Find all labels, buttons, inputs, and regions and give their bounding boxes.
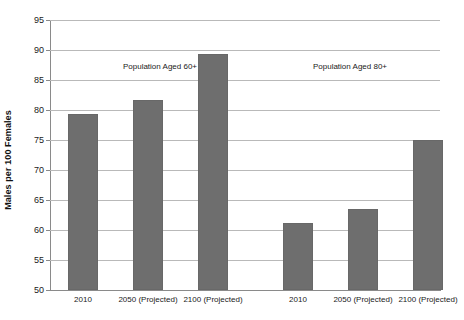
- y-tick-label: 70: [34, 165, 44, 175]
- x-tick-label: 2050 (Projected): [118, 295, 177, 304]
- y-axis-title: Males per 100 Females: [0, 0, 16, 320]
- x-tick-label: 2010: [74, 295, 92, 304]
- gridline: [50, 140, 440, 141]
- bar: [413, 140, 443, 290]
- y-tick-mark: [46, 290, 50, 291]
- gridline: [50, 230, 440, 231]
- bar: [348, 209, 378, 290]
- y-tick-label: 80: [34, 105, 44, 115]
- gridline: [50, 20, 440, 21]
- y-tick-mark: [46, 140, 50, 141]
- y-tick-mark: [46, 230, 50, 231]
- x-tick-label: 2050 (Projected): [333, 295, 392, 304]
- y-tick-label: 85: [34, 75, 44, 85]
- y-tick-mark: [46, 170, 50, 171]
- group-annotation-label: Population Aged 80+: [313, 62, 387, 71]
- gridline: [50, 50, 440, 51]
- x-tick-label: 2100 (Projected): [398, 295, 457, 304]
- plot-area: 50556065707580859095: [50, 20, 440, 290]
- bar: [68, 114, 98, 290]
- y-tick-mark: [46, 260, 50, 261]
- y-tick-label: 90: [34, 45, 44, 55]
- y-tick-label: 50: [34, 285, 44, 295]
- y-tick-mark: [46, 80, 50, 81]
- y-tick-label: 75: [34, 135, 44, 145]
- gridline: [50, 200, 440, 201]
- group-annotation-label: Population Aged 60+: [123, 62, 197, 71]
- bar-chart: Males per 100 Females 505560657075808590…: [0, 0, 464, 320]
- y-tick-label: 60: [34, 225, 44, 235]
- y-tick-mark: [46, 200, 50, 201]
- gridline: [50, 170, 440, 171]
- gridline: [50, 110, 440, 111]
- x-tick-label: 2010: [289, 295, 307, 304]
- bar: [283, 223, 313, 290]
- bar: [133, 100, 163, 290]
- y-tick-label: 65: [34, 195, 44, 205]
- bar: [198, 54, 228, 290]
- gridline: [50, 80, 440, 81]
- y-tick-label: 55: [34, 255, 44, 265]
- y-tick-mark: [46, 110, 50, 111]
- x-tick-label: 2100 (Projected): [183, 295, 242, 304]
- y-tick-mark: [46, 50, 50, 51]
- x-axis-line: [50, 290, 441, 291]
- y-tick-mark: [46, 20, 50, 21]
- gridline: [50, 260, 440, 261]
- y-tick-label: 95: [34, 15, 44, 25]
